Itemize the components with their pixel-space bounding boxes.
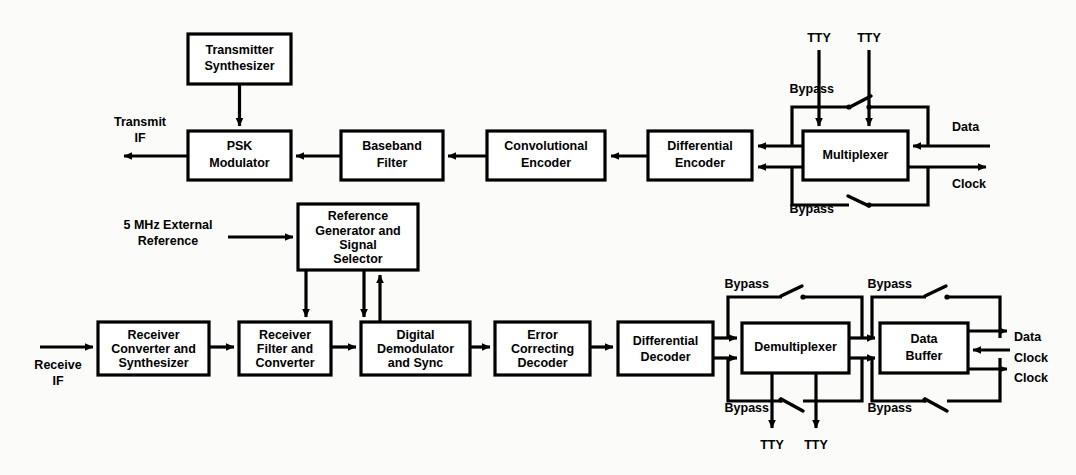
- switch-contact-bypass-demux-upper: [800, 294, 805, 299]
- label-clock-out-receive: Clock: [1014, 371, 1048, 385]
- label-bypass-demux-upper: Bypass: [725, 277, 770, 291]
- block-baseband-filter[interactable]: Baseband Filter: [341, 131, 443, 180]
- block-convolutional-encoder-label-1: Convolutional: [504, 139, 587, 153]
- block-error-correcting-decoder-label-1: Error: [527, 328, 558, 342]
- label-bypass-upper-transmit: Bypass: [790, 82, 835, 96]
- label-transmit-if-line-1: Transmit: [114, 115, 167, 129]
- block-receiver-converter-label-1: Receiver: [127, 328, 179, 342]
- block-reference-generator-label-2: Generator and: [315, 224, 400, 238]
- block-data-buffer-box: [880, 323, 968, 373]
- switch-lever-bypass-buffer-upper[interactable]: [925, 286, 946, 296]
- label-transmit-if-line-2: IF: [134, 131, 145, 145]
- block-error-correcting-decoder-label-3: Decoder: [517, 356, 567, 370]
- label-bypass-buffer-upper: Bypass: [868, 277, 913, 291]
- label-data-receive: Data: [1014, 330, 1042, 344]
- block-differential-decoder-label-1: Differential: [633, 334, 698, 348]
- block-receiver-filter[interactable]: Receiver Filter and Converter: [239, 322, 331, 375]
- block-transmitter-synthesizer[interactable]: Transmitter Synthesizer: [188, 34, 291, 84]
- block-receiver-filter-label-1: Receiver: [259, 328, 311, 342]
- block-multiplexer[interactable]: Multiplexer: [803, 131, 908, 180]
- block-receiver-converter-label-3: Synthesizer: [118, 356, 188, 370]
- switch-lever-bypass-lower-transmit[interactable]: [848, 196, 869, 206]
- block-data-buffer[interactable]: Data Buffer: [880, 323, 968, 373]
- block-digital-demodulator-label-1: Digital: [396, 328, 434, 342]
- label-data-transmit: Data: [952, 120, 980, 134]
- block-demultiplexer[interactable]: Demultiplexer: [742, 323, 849, 373]
- label-bypass-demux-lower: Bypass: [725, 401, 770, 415]
- block-psk-modulator-label-1: PSK: [227, 139, 253, 153]
- block-demultiplexer-label: Demultiplexer: [754, 340, 837, 354]
- block-reference-generator[interactable]: Reference Generator and Signal Selector: [298, 204, 418, 270]
- switch-lever-bypass-demux-upper[interactable]: [781, 286, 802, 296]
- switch-contact-bypass-buffer-upper: [944, 294, 949, 299]
- block-differential-encoder[interactable]: Differential Encoder: [648, 131, 752, 180]
- block-convolutional-encoder[interactable]: Convolutional Encoder: [487, 131, 605, 180]
- block-differential-decoder-label-2: Decoder: [640, 350, 690, 364]
- block-data-buffer-label-2: Buffer: [906, 349, 943, 363]
- block-psk-modulator-label-2: Modulator: [209, 156, 270, 170]
- label-clock-in-receive: Clock: [1014, 351, 1048, 365]
- block-differential-decoder[interactable]: Differential Decoder: [618, 322, 713, 375]
- label-tty-left-transmit: TTY: [807, 31, 831, 45]
- block-reference-generator-label-1: Reference: [328, 209, 388, 223]
- block-error-correcting-decoder[interactable]: Error Correcting Decoder: [495, 322, 590, 375]
- block-data-buffer-label-1: Data: [910, 332, 938, 346]
- block-differential-encoder-label-1: Differential: [667, 139, 732, 153]
- block-receiver-converter-label-2: Converter and: [111, 342, 196, 356]
- block-receiver-converter[interactable]: Receiver Converter and Synthesizer: [98, 322, 209, 375]
- switch-contact-right-bypass-lower-transmit: [866, 202, 871, 207]
- block-diagram: Transmitter Synthesizer PSK Modulator Tr…: [0, 0, 1076, 475]
- block-error-correcting-decoder-label-2: Correcting: [511, 342, 574, 356]
- block-transmitter-synthesizer-label-2: Synthesizer: [204, 59, 274, 73]
- block-reference-generator-label-4: Selector: [333, 252, 382, 266]
- block-transmitter-synthesizer-label-1: Transmitter: [205, 43, 273, 57]
- block-convolutional-encoder-label-2: Encoder: [521, 156, 571, 170]
- label-external-reference-line-1: 5 MHz External: [124, 218, 213, 232]
- label-tty-left-receive: TTY: [760, 438, 784, 452]
- switch-contact-left-bypass-upper-transmit: [846, 104, 851, 109]
- label-external-reference-line-2: Reference: [138, 234, 198, 248]
- block-differential-encoder-label-2: Encoder: [675, 156, 725, 170]
- switch-contact-bypass-demux-lower: [778, 397, 783, 402]
- block-digital-demodulator-label-3: and Sync: [388, 356, 444, 370]
- block-multiplexer-label: Multiplexer: [823, 148, 889, 162]
- block-baseband-filter-label-1: Baseband: [362, 139, 422, 153]
- label-clock-transmit: Clock: [952, 177, 986, 191]
- block-diagram-canvas: Transmitter Synthesizer PSK Modulator Tr…: [0, 0, 1076, 475]
- block-digital-demodulator[interactable]: Digital Demodulator and Sync: [361, 322, 470, 375]
- label-bypass-buffer-lower: Bypass: [868, 401, 913, 415]
- block-baseband-filter-label-2: Filter: [377, 156, 408, 170]
- switch-lever-bypass-demux-lower[interactable]: [781, 399, 803, 411]
- block-receiver-filter-label-3: Converter: [255, 356, 314, 370]
- label-receive-if-line-2: IF: [52, 374, 63, 388]
- block-differential-decoder-box: [618, 322, 713, 375]
- label-receive-if-line-1: Receive: [34, 358, 81, 372]
- switch-contact-right-bypass-upper-transmit: [866, 104, 871, 109]
- label-bypass-lower-transmit: Bypass: [790, 202, 835, 216]
- label-tty-right-receive: TTY: [804, 438, 828, 452]
- block-reference-generator-label-3: Signal: [339, 238, 377, 252]
- block-digital-demodulator-label-2: Demodulator: [377, 342, 454, 356]
- block-psk-modulator[interactable]: PSK Modulator: [188, 131, 291, 180]
- label-tty-right-transmit: TTY: [857, 31, 881, 45]
- switch-contact-bypass-buffer-lower: [922, 397, 927, 402]
- block-receiver-filter-label-2: Filter and: [257, 342, 313, 356]
- switch-lever-bypass-buffer-lower[interactable]: [925, 399, 947, 411]
